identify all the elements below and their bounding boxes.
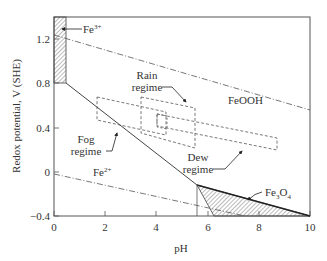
y-tick-label: 0 (45, 166, 51, 178)
x-tick-label: 10 (305, 221, 317, 233)
fog-regime-label-line2: regime (71, 145, 102, 157)
x-tick-label: 0 (51, 221, 57, 233)
fog-regime-label-line1: Fog (77, 133, 95, 145)
rain-regime-box (141, 97, 195, 148)
y-tick-label: −0.4 (30, 210, 50, 222)
y-tick-label: 0.8 (36, 77, 50, 89)
fe3o4-label: Fe3O4 (265, 186, 291, 201)
x-tick-label: 6 (205, 221, 211, 233)
dew-regime-label-line1: Dew (188, 151, 209, 163)
x-tick-label: 4 (153, 221, 159, 233)
rain-regime-label-line2: regime (132, 81, 163, 93)
feooh-label: FeOOH (228, 94, 263, 106)
dew-regime-box (157, 114, 277, 150)
dew-regime-label-line2: regime (183, 163, 214, 175)
y-tick-label: 1.2 (36, 33, 50, 45)
fe2-label: Fe2+ (93, 166, 112, 178)
x-tick-label: 2 (102, 221, 108, 233)
dew-regime-pointer (213, 151, 242, 169)
rain-regime-label-line1: Rain (137, 69, 158, 81)
rain-regime-pointer (162, 87, 186, 102)
y-axis-title: Redox potential, V (SHE) (10, 59, 23, 173)
fog-regime-box (97, 97, 166, 135)
fe3-region (54, 17, 66, 83)
x-axis-title: pH (174, 242, 188, 254)
fe3-label: Fe3+ (83, 23, 102, 35)
pourbaix-diagram: 0 2 4 6 8 10 1.2 0.8 0.4 0 −0.4 pH Redox… (0, 0, 327, 261)
fog-regime-pointer (106, 133, 117, 151)
y-tick-label: 0.4 (36, 122, 50, 134)
x-tick-label: 8 (256, 221, 262, 233)
upper-water-line (54, 35, 310, 110)
